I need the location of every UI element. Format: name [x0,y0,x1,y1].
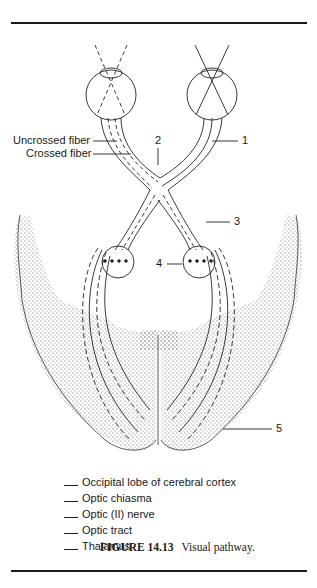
answer-blank[interactable] [64,501,78,502]
bottom-rule [11,570,307,572]
callout-uncrossed-fiber: Uncrossed fiber [13,134,90,146]
visual-pathway-diagram [0,0,317,470]
occipital-lobe-left [14,215,156,451]
answer-blank[interactable] [64,549,78,550]
callout-2: 2 [155,134,161,146]
answer-blank[interactable] [64,517,78,518]
figure-title: Visual pathway. [181,541,254,553]
figure-number: FIGURE 14.13 [100,541,173,553]
callout-4: 4 [156,257,162,269]
figure-caption: FIGURE 14.13Visual pathway. [100,541,255,553]
midline-stipple [140,330,178,350]
key-item: Optic chiasma [64,490,236,506]
key-item: Occipital lobe of cerebral cortex [64,474,236,490]
callout-3: 3 [234,215,240,227]
callout-crossed-fiber: Crossed fiber [26,147,91,159]
answer-blank[interactable] [64,485,78,486]
key-item: Optic (II) nerve [64,506,236,522]
occipital-lobe-right [161,215,302,451]
left-eye [86,45,136,120]
callout-5: 5 [276,422,282,434]
optic-tracts [115,190,203,250]
right-eye [187,45,237,120]
key-item: Optic tract [64,522,236,538]
callout-1: 1 [242,134,248,146]
answer-blank[interactable] [64,533,78,534]
